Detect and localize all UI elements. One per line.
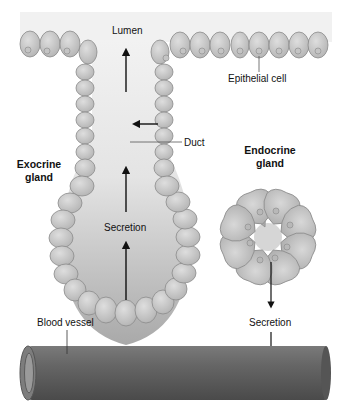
- label-blood-vessel: Blood vessel: [37, 317, 94, 328]
- blood-vessel: [20, 346, 331, 400]
- label-endocrine-gland: Endocrine gland: [240, 144, 300, 170]
- label-exocrine-gland: Exocrine gland: [14, 158, 64, 184]
- label-exocrine-line1: Exocrine: [14, 158, 64, 171]
- label-secretion-exocrine: Secretion: [104, 222, 146, 233]
- label-epithelial-cell: Epithelial cell: [228, 73, 286, 84]
- label-exocrine-line2: gland: [14, 171, 64, 184]
- label-endocrine-line2: gland: [240, 157, 300, 170]
- label-lumen: Lumen: [112, 25, 143, 36]
- label-endocrine-line1: Endocrine: [240, 144, 300, 157]
- gland-diagram: [0, 0, 352, 414]
- label-duct: Duct: [184, 137, 205, 148]
- label-secretion-endocrine: Secretion: [249, 317, 291, 328]
- endocrine-gland: [216, 185, 319, 288]
